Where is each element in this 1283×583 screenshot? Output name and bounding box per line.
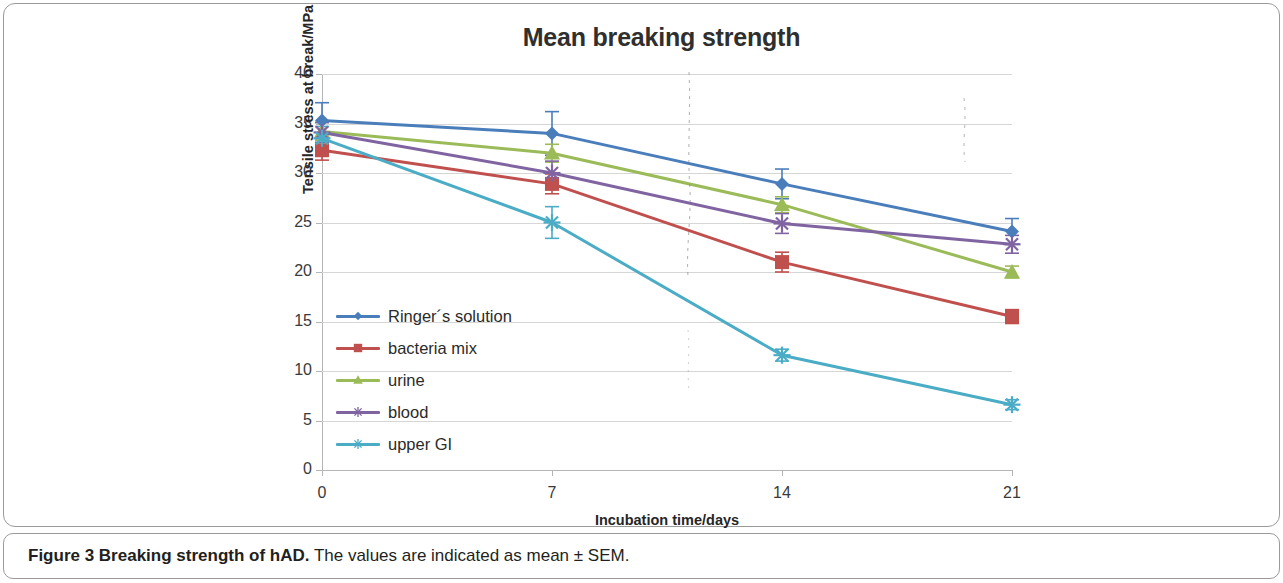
x-tick-label: 21 xyxy=(982,484,1042,502)
data-point-square xyxy=(775,255,789,269)
y-tick-label: 20 xyxy=(266,262,312,280)
series-line-blood xyxy=(322,132,1012,244)
data-point-star xyxy=(544,165,561,182)
series-line-urine xyxy=(322,131,1012,272)
data-point-star xyxy=(353,407,363,417)
legend-item-ringer-s-solution[interactable]: Ringer´s solution xyxy=(336,300,512,332)
legend-marker-diamond-icon xyxy=(352,310,364,322)
chart-legend: Ringer´s solutionbacteria mixurinebloodu… xyxy=(336,300,512,460)
legend-label: bacteria mix xyxy=(388,339,477,358)
legend-key-blood xyxy=(336,405,380,419)
chart-title: Mean breaking strength xyxy=(0,23,1283,52)
legend-key-ringer-s-solution xyxy=(336,309,380,323)
figure-caption-title: Figure 3 Breaking strength of hAD. xyxy=(28,546,309,565)
x-tick-label: 7 xyxy=(522,484,582,502)
data-point-star xyxy=(314,130,331,147)
legend-marker-triangle-icon xyxy=(352,374,364,386)
legend-marker-star-icon xyxy=(352,438,364,450)
data-point-square xyxy=(354,344,362,352)
legend-label: urine xyxy=(388,371,425,390)
x-tick-mark xyxy=(322,470,323,476)
data-point-star xyxy=(353,439,363,449)
legend-key-upper-gi xyxy=(336,437,380,451)
data-point-star xyxy=(1004,236,1021,253)
x-axis-title: Incubation time/days xyxy=(322,512,1012,528)
legend-item-bacteria-mix[interactable]: bacteria mix xyxy=(336,332,512,364)
data-point-diamond xyxy=(354,312,362,320)
data-point-square xyxy=(1005,310,1019,324)
legend-item-blood[interactable]: blood xyxy=(336,396,512,428)
data-point-star xyxy=(774,347,791,364)
x-tick-mark xyxy=(552,470,553,476)
legend-key-bacteria-mix xyxy=(336,341,380,355)
legend-key-urine xyxy=(336,373,380,387)
legend-label: upper GI xyxy=(388,435,452,454)
y-axis-title: Tensile stress at break/MPa xyxy=(300,5,316,194)
y-tick-label: 5 xyxy=(266,411,312,429)
data-point-star xyxy=(1004,396,1021,413)
error-bars-bacteria-mix xyxy=(315,140,1019,323)
legend-item-urine[interactable]: urine xyxy=(336,364,512,396)
figure-page: Mean breaking strength 0510152025303540 … xyxy=(0,0,1283,583)
data-point-star xyxy=(544,214,561,231)
x-tick-mark xyxy=(1012,470,1013,476)
legend-label: blood xyxy=(388,403,428,422)
data-point-diamond xyxy=(775,177,789,191)
y-tick-label: 0 xyxy=(266,460,312,478)
y-tick-label: 15 xyxy=(266,312,312,330)
data-point-triangle xyxy=(353,375,363,384)
figure-caption-text: The values are indicated as mean ± SEM. xyxy=(309,546,629,565)
legend-label: Ringer´s solution xyxy=(388,307,512,326)
legend-marker-square-icon xyxy=(352,342,364,354)
y-tick-label: 10 xyxy=(266,361,312,379)
x-tick-label: 0 xyxy=(292,484,352,502)
figure-caption: Figure 3 Breaking strength of hAD. The v… xyxy=(28,546,629,566)
y-tick-label: 25 xyxy=(266,213,312,231)
error-bars-urine xyxy=(315,123,1019,278)
x-tick-label: 14 xyxy=(752,484,812,502)
data-point-diamond xyxy=(545,126,559,140)
data-point-star xyxy=(774,215,791,232)
x-tick-mark xyxy=(782,470,783,476)
legend-item-upper-gi[interactable]: upper GI xyxy=(336,428,512,460)
legend-marker-star-icon xyxy=(352,406,364,418)
x-axis-line xyxy=(322,470,1012,471)
